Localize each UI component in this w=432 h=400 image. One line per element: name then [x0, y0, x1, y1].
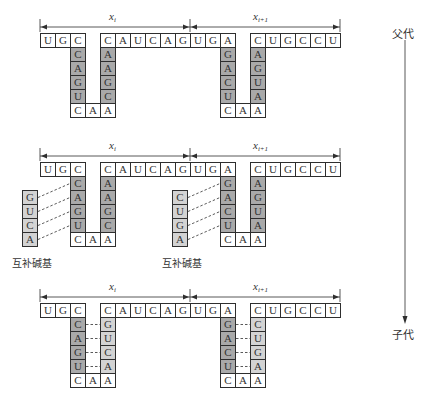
stem-base-cell: G [220, 47, 236, 62]
loop-base-cell: A [100, 373, 116, 388]
stem-base-cell: U [250, 75, 266, 90]
complementary-base-cell: G [172, 218, 188, 233]
complementary-bases-label: 互补碱基 [162, 255, 202, 270]
stem-base-cell: G [70, 75, 86, 90]
stem-base-cell: A [70, 331, 86, 346]
base-cell: U [130, 162, 146, 177]
stem-base-cell: G [70, 204, 86, 219]
loop-base-cell: A [250, 373, 266, 388]
base-cell: A [160, 303, 176, 318]
stem-base-cell: C [70, 47, 86, 62]
loop-base-cell: C [220, 103, 236, 118]
base-cell: U [130, 33, 146, 48]
base-cell: U [325, 303, 341, 318]
segment-label-xi1-subscript: i+1 [258, 145, 268, 153]
loop-base-cell: A [235, 103, 251, 118]
pairing-guide-line [38, 198, 70, 212]
stem-base-cell: A [250, 89, 266, 104]
stem-base-cell: A [250, 359, 266, 374]
complementary-bases-label: 互补碱基 [12, 255, 52, 270]
arrowhead-icon [333, 295, 339, 300]
base-cell: A [220, 162, 236, 177]
base-cell: A [160, 162, 176, 177]
stem-base-cell: G [100, 75, 116, 90]
base-cell: A [115, 33, 131, 48]
stem-base-cell: A [220, 61, 236, 76]
diagram-lines-layer [0, 0, 432, 400]
base-cell: C [145, 162, 161, 177]
parent-generation-label: 父代 [392, 25, 414, 41]
pairing-guide-line [188, 226, 220, 240]
stem-base-cell: U [220, 218, 236, 233]
stem-base-cell: U [100, 331, 116, 346]
complementary-base-cell: A [172, 232, 188, 247]
base-cell: A [220, 33, 236, 48]
stem-base-cell: A [250, 218, 266, 233]
base-cell: C [250, 33, 266, 48]
base-cell: G [205, 33, 221, 48]
stem-base-cell: C [100, 218, 116, 233]
segment-label-xi-subscript: i [114, 286, 116, 294]
stem-base-cell: A [100, 359, 116, 374]
base-cell: C [250, 162, 266, 177]
base-cell: G [55, 303, 71, 318]
stem-base-cell: G [220, 317, 236, 332]
base-cell: C [310, 33, 326, 48]
arrowhead-icon [191, 154, 197, 159]
base-cell: U [190, 33, 206, 48]
arrowhead-icon [333, 25, 339, 30]
base-cell: A [115, 303, 131, 318]
arrowhead-icon [41, 295, 47, 300]
stem-base-cell: G [250, 61, 266, 76]
base-cell: C [295, 303, 311, 318]
base-cell: U [325, 162, 341, 177]
stem-base-cell: A [220, 331, 236, 346]
stem-base-cell: A [100, 176, 116, 191]
base-cell: U [40, 303, 56, 318]
arrowhead-icon [41, 25, 47, 30]
base-cell: G [280, 162, 296, 177]
complementary-base-cell: C [172, 190, 188, 205]
stem-base-cell: U [70, 89, 86, 104]
stem-base-cell: G [100, 317, 116, 332]
base-cell: C [70, 33, 86, 48]
pairing-guide-line [38, 212, 70, 226]
stem-base-cell: C [70, 176, 86, 191]
segment-label-xi: xi [109, 139, 116, 153]
arrowhead-icon [333, 154, 339, 159]
stem-base-cell: G [250, 190, 266, 205]
complementary-base-cell: A [22, 232, 38, 247]
complementary-base-cell: C [22, 218, 38, 233]
stem-base-cell: A [100, 47, 116, 62]
complementary-base-cell: U [22, 204, 38, 219]
arrowhead-icon [183, 154, 189, 159]
base-cell: A [220, 303, 236, 318]
pairing-guide-line [188, 184, 220, 198]
base-cell: C [295, 162, 311, 177]
loop-base-cell: C [220, 373, 236, 388]
base-cell: G [205, 162, 221, 177]
loop-base-cell: A [100, 103, 116, 118]
base-cell: C [310, 162, 326, 177]
loop-base-cell: A [85, 103, 101, 118]
base-cell: C [70, 162, 86, 177]
base-cell: G [175, 33, 191, 48]
stem-base-cell: A [70, 61, 86, 76]
complementary-base-cell: U [172, 204, 188, 219]
loop-base-cell: A [235, 232, 251, 247]
base-cell: U [265, 303, 281, 318]
loop-base-cell: A [235, 373, 251, 388]
base-cell: C [100, 33, 116, 48]
base-cell: C [295, 33, 311, 48]
stem-base-cell: G [100, 204, 116, 219]
segment-label-xi1: xi+1 [253, 139, 268, 153]
base-cell: U [40, 33, 56, 48]
base-cell: C [100, 162, 116, 177]
complementary-base-cell: G [22, 190, 38, 205]
stem-base-cell: C [100, 89, 116, 104]
stem-base-cell: U [70, 359, 86, 374]
base-cell: G [175, 162, 191, 177]
base-cell: G [205, 303, 221, 318]
child-generation-label: 子代 [392, 326, 414, 342]
stem-base-cell: C [250, 317, 266, 332]
